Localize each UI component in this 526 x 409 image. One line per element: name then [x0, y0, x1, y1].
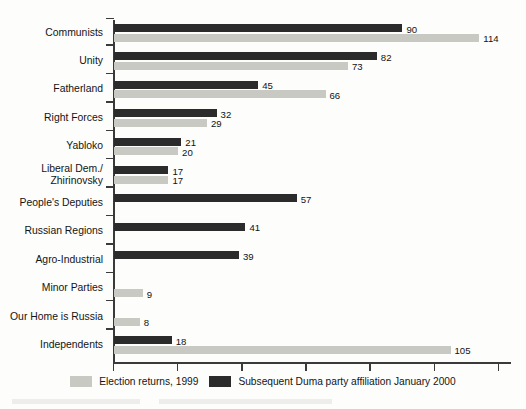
bar-value-label: 32	[221, 110, 232, 120]
bar-value-label: 66	[330, 91, 341, 101]
bar	[114, 223, 245, 231]
bar	[114, 346, 451, 354]
bar	[114, 81, 258, 89]
bar-value-label: 105	[455, 346, 471, 356]
bar	[114, 289, 143, 297]
bar	[114, 109, 217, 117]
bar	[114, 24, 402, 32]
bar-value-label: 82	[381, 53, 392, 63]
bar-value-label: 9	[147, 290, 152, 300]
bar	[114, 119, 207, 127]
category-label: Yabloko	[0, 140, 103, 152]
chart-legend: Election returns, 1999Subsequent Duma pa…	[0, 376, 526, 387]
legend-swatch-duma-affiliation	[209, 376, 231, 387]
bar	[114, 166, 168, 174]
x-axis-tick	[369, 363, 370, 371]
bar-group: Our Home is Russia8	[0, 306, 526, 334]
plot-area: Communists90114Unity8273Fatherland4566Ri…	[0, 0, 526, 409]
bar-group: Agro-Industrial39	[0, 249, 526, 277]
bar-group: Yabloko2120	[0, 136, 526, 164]
bar	[114, 34, 479, 42]
x-axis-tick	[177, 363, 178, 371]
category-label: Right Forces	[0, 112, 103, 124]
bar-value-label: 114	[483, 34, 498, 44]
bar-value-label: 29	[211, 119, 222, 129]
bar-value-label: 73	[352, 62, 363, 72]
bar-value-label: 8	[144, 318, 149, 328]
bar-group: Unity8273	[0, 50, 526, 78]
bar	[114, 251, 239, 259]
category-label: Communists	[0, 27, 103, 39]
bar	[114, 336, 172, 344]
bar	[114, 52, 377, 60]
bar-group: Right Forces3229	[0, 107, 526, 135]
bar-chart: Communists90114Unity8273Fatherland4566Ri…	[0, 0, 526, 409]
legend-item: Election returns, 1999	[70, 376, 198, 387]
category-label: People's Deputies	[0, 197, 103, 209]
bar	[114, 194, 297, 202]
bar-group: Fatherland4566	[0, 79, 526, 107]
category-label: Russian Regions	[0, 225, 103, 237]
bar-value-label: 20	[182, 148, 193, 158]
category-label: Liberal Dem./ Zhirinovsky	[0, 163, 103, 186]
bar	[114, 90, 326, 98]
bar-group: Independents18105	[0, 334, 526, 362]
x-axis-tick	[434, 363, 435, 371]
x-axis-tick	[241, 363, 242, 371]
category-label: Our Home is Russia	[0, 311, 103, 323]
bar-value-label: 17	[172, 176, 183, 186]
x-axis-tick	[113, 363, 114, 371]
bar	[114, 318, 140, 326]
bar-value-label: 39	[243, 252, 254, 262]
bar-group: Minor Parties9	[0, 278, 526, 306]
x-axis-tick	[498, 363, 499, 371]
bar-group: People's Deputies57	[0, 192, 526, 220]
legend-label: Subsequent Duma party affiliation Januar…	[238, 376, 455, 387]
category-label: Unity	[0, 55, 103, 67]
legend-label: Election returns, 1999	[99, 376, 198, 387]
legend-item: Subsequent Duma party affiliation Januar…	[209, 376, 455, 387]
legend-swatch-election-returns	[70, 376, 92, 387]
bar-group: Liberal Dem./ Zhirinovsky1717	[0, 164, 526, 192]
bar-value-label: 57	[301, 195, 312, 205]
bar-value-label: 41	[249, 223, 260, 233]
category-label: Agro-Industrial	[0, 254, 103, 266]
category-label: Fatherland	[0, 83, 103, 95]
y-axis-tick	[106, 18, 114, 19]
bar	[114, 176, 168, 184]
bar-group: Russian Regions41	[0, 221, 526, 249]
category-label: Independents	[0, 339, 103, 351]
bar	[114, 138, 181, 146]
caption-strip	[12, 399, 332, 404]
bar-group: Communists90114	[0, 22, 526, 50]
category-label: Minor Parties	[0, 282, 103, 294]
bar	[114, 147, 178, 155]
bar	[114, 62, 348, 70]
x-axis-tick	[305, 363, 306, 371]
